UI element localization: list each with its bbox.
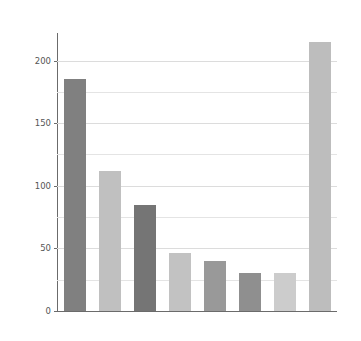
bar <box>99 171 121 311</box>
x-axis-spine <box>57 311 337 312</box>
y-tick-label: 200 <box>35 56 51 65</box>
bar <box>169 253 191 311</box>
y-tick-label: 150 <box>35 119 51 128</box>
bar-chart: 050100150200 <box>0 0 361 341</box>
bars-group <box>57 33 337 311</box>
bar <box>204 261 226 311</box>
bar <box>134 205 156 311</box>
bar <box>309 42 331 311</box>
bar <box>274 273 296 311</box>
plot-area: 050100150200 <box>57 33 337 311</box>
bar <box>64 79 86 311</box>
y-tick-mark <box>54 311 57 312</box>
y-tick-label: 0 <box>46 307 51 316</box>
y-tick-label: 100 <box>35 182 51 191</box>
y-tick-label: 50 <box>40 244 51 253</box>
bar <box>239 273 261 311</box>
